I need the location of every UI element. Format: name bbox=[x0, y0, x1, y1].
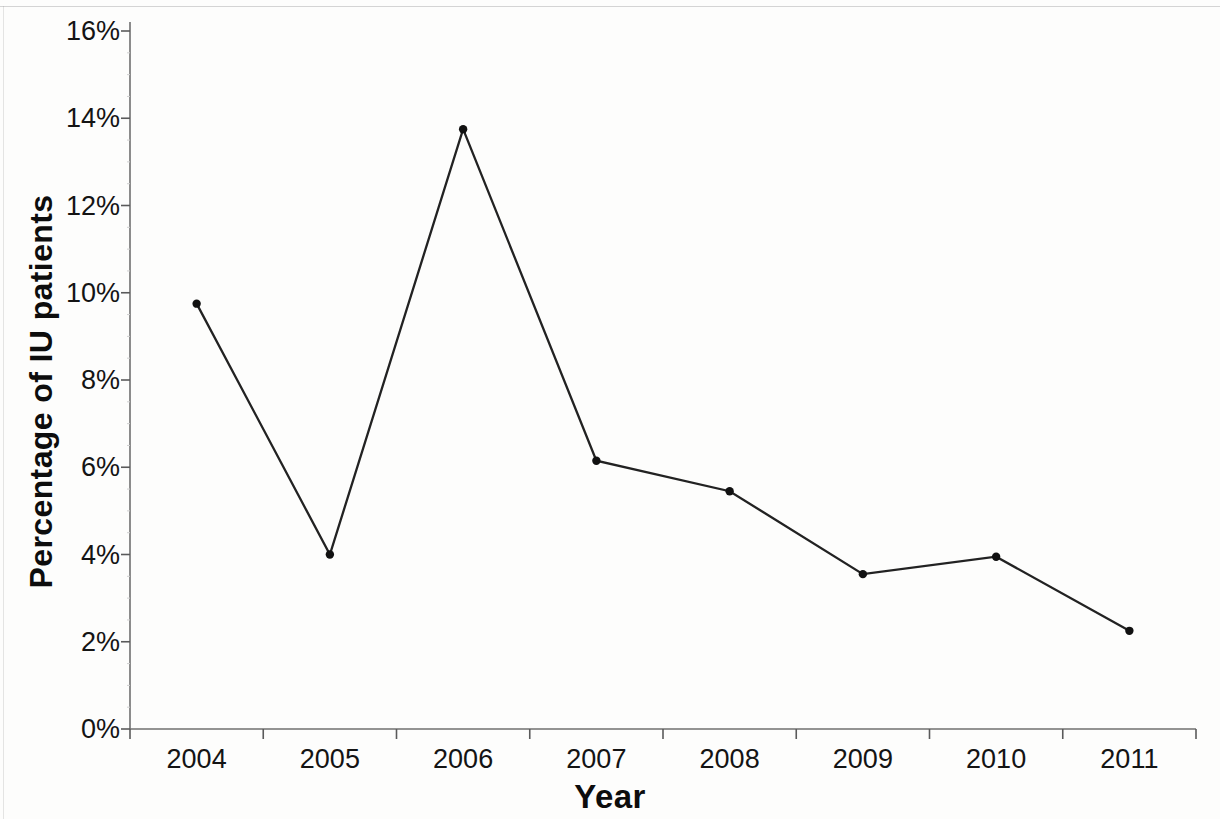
data-point-marker bbox=[592, 457, 600, 465]
y-axis-title-wrapper: Percentage of IU patients bbox=[0, 0, 70, 819]
data-point-marker bbox=[992, 552, 1000, 560]
x-axis-title: Year bbox=[0, 778, 1220, 816]
data-point-marker bbox=[326, 550, 334, 558]
x-axis-tick-label: 2011 bbox=[1049, 744, 1209, 775]
line-chart-plot bbox=[0, 0, 1220, 819]
axis-layer bbox=[121, 22, 1196, 739]
data-series-layer bbox=[192, 125, 1133, 635]
data-point-marker bbox=[459, 125, 467, 133]
chart-figure: 0%2%4%6%8%10%12%14%16% 20042005200620072… bbox=[0, 0, 1220, 819]
data-point-marker bbox=[192, 299, 200, 307]
data-point-marker bbox=[859, 570, 867, 578]
y-axis-title: Percentage of IU patients bbox=[23, 132, 60, 652]
data-point-marker bbox=[725, 487, 733, 495]
data-point-marker bbox=[1125, 627, 1133, 635]
data-line bbox=[197, 129, 1130, 631]
